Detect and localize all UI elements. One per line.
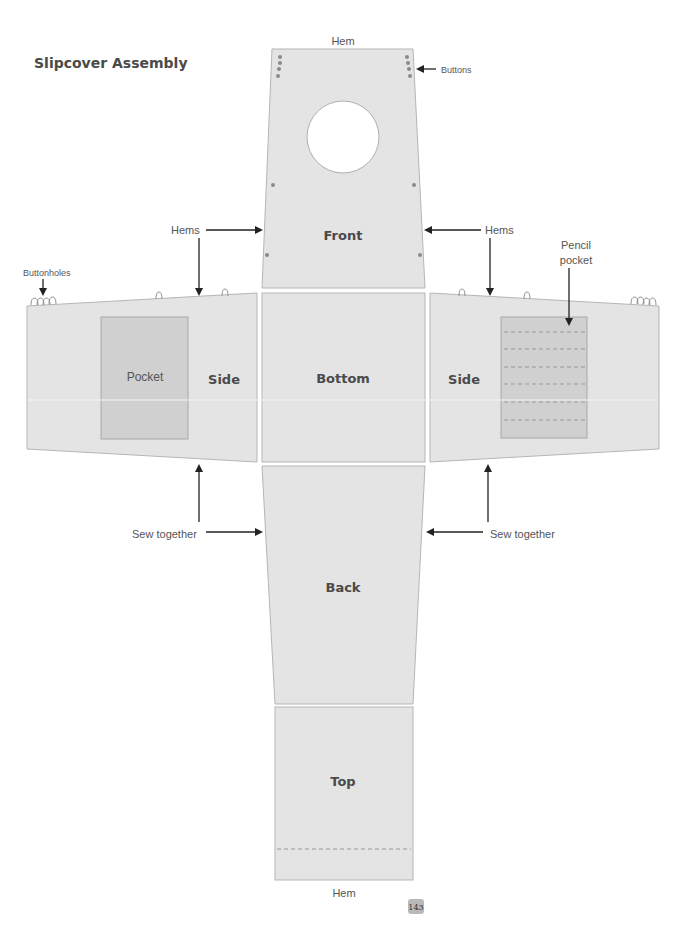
sew-together-right-callout: Sew together [426, 464, 555, 540]
arrow-down-icon [195, 288, 203, 296]
pencil-pocket-label-line2: pocket [560, 254, 592, 266]
front-panel: Front [262, 49, 425, 288]
back-label: Back [325, 580, 360, 595]
slipcover-diagram: Slipcover Assembly Front Bottom [0, 0, 697, 943]
button-dot [408, 74, 412, 78]
button-dot [405, 55, 409, 59]
hem-top-label: Hem [331, 35, 354, 47]
hems-left-callout: Hems [171, 224, 263, 296]
buttonholes-callout: Buttonholes [23, 268, 71, 296]
arrow-down-icon [486, 288, 494, 296]
front-label: Front [324, 228, 363, 243]
buttonholes-label: Buttonholes [23, 268, 71, 278]
arrow-left-icon [426, 528, 434, 536]
bottom-label: Bottom [316, 371, 370, 386]
sew-together-left-callout: Sew together [132, 464, 263, 540]
button-dot [278, 61, 282, 65]
button-dot [276, 74, 280, 78]
button-dot [407, 67, 411, 71]
pocket-label: Pocket [127, 370, 164, 384]
bottom-panel: Bottom [262, 293, 425, 462]
arrow-up-icon [484, 464, 492, 472]
side-right-panel: Side [430, 289, 659, 462]
top-panel: Top [275, 707, 413, 880]
arrow-left-icon [416, 65, 424, 73]
buttons-label: Buttons [441, 65, 472, 75]
button-dot [406, 61, 410, 65]
side-left-label: Side [208, 372, 240, 387]
buttons-callout: Buttons [416, 65, 472, 75]
side-left-panel: Pocket Side [27, 289, 257, 462]
arrow-right-icon [255, 528, 263, 536]
hems-right-callout: Hems [424, 224, 514, 296]
hems-left-label: Hems [171, 224, 200, 236]
button-dot [271, 183, 275, 187]
sew-together-left-label: Sew together [132, 528, 197, 540]
sew-together-right-label: Sew together [490, 528, 555, 540]
arrow-up-icon [195, 464, 203, 472]
button-dot [278, 55, 282, 59]
front-opening-circle [307, 101, 379, 173]
arrow-down-icon [39, 288, 47, 296]
back-panel: Back [262, 466, 425, 704]
button-dot [412, 183, 416, 187]
top-label: Top [330, 774, 355, 789]
arrow-left-icon [424, 226, 432, 234]
side-right-label: Side [448, 372, 480, 387]
pencil-pocket-label-line1: Pencil [561, 239, 591, 251]
page-number-badge: 143 [408, 899, 424, 914]
hem-bottom-label: Hem [332, 887, 355, 899]
hems-right-label: Hems [485, 224, 514, 236]
arrow-right-icon [255, 226, 263, 234]
button-dot [265, 253, 269, 257]
button-dot [277, 67, 281, 71]
page-number: 143 [408, 903, 423, 912]
button-dot [418, 253, 422, 257]
top-panel-shape [275, 707, 413, 880]
diagram-title: Slipcover Assembly [34, 55, 188, 71]
